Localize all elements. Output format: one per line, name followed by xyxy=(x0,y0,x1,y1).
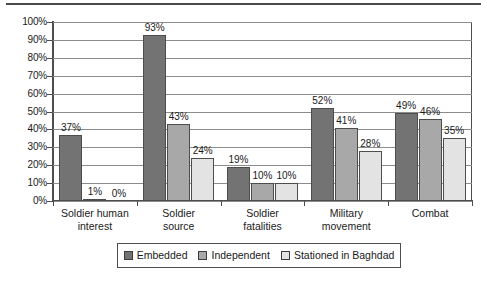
legend-swatch-icon-2 xyxy=(281,251,290,260)
legend-label-2: Stationed in Baghdad xyxy=(294,250,394,261)
category-label-2: Soldier fatalities xyxy=(221,207,305,232)
bar-value-label-1-1: 43% xyxy=(161,112,196,122)
bar-1-1 xyxy=(167,124,190,201)
y-tick-label-90: 90% xyxy=(3,35,47,45)
y-tick-label-50: 50% xyxy=(3,107,47,117)
bar-value-label-2-3: 28% xyxy=(353,139,388,149)
bar-value-label-2-4: 35% xyxy=(437,126,472,136)
bar-2-4 xyxy=(443,138,466,201)
x-axis-separator-1 xyxy=(221,201,222,206)
bar-2-3 xyxy=(359,151,382,201)
bar-value-label-2-0: 0% xyxy=(101,189,136,199)
category-label-3: Military movement xyxy=(304,207,388,232)
legend-swatch-icon-1 xyxy=(198,251,207,260)
bar-value-label-1-4: 46% xyxy=(413,107,448,117)
bar-2-2 xyxy=(275,183,298,201)
gridline-70 xyxy=(53,76,472,77)
y-tick-mark-10 xyxy=(47,183,53,184)
y-tick-label-10: 10% xyxy=(3,178,47,188)
y-tick-mark-70 xyxy=(47,76,53,77)
y-tick-label-0: 0% xyxy=(3,196,47,206)
y-tick-label-80: 80% xyxy=(3,53,47,63)
y-tick-label-60: 60% xyxy=(3,89,47,99)
bar-value-label-0-2: 19% xyxy=(221,155,256,165)
gridline-80 xyxy=(53,58,472,59)
y-tick-mark-80 xyxy=(47,58,53,59)
bar-value-label-1-3: 41% xyxy=(329,116,364,126)
legend-item-2[interactable]: Stationed in Baghdad xyxy=(281,250,394,261)
bar-0-4 xyxy=(395,113,418,201)
bar-1-0 xyxy=(83,199,106,201)
x-axis-separator-start xyxy=(53,201,54,206)
legend-item-0[interactable]: Embedded xyxy=(124,250,188,261)
gridline-0 xyxy=(53,201,472,202)
y-tick-mark-30 xyxy=(47,147,53,148)
y-tick-mark-100 xyxy=(47,22,53,23)
x-axis-separator-0 xyxy=(137,201,138,206)
x-axis-separator-3 xyxy=(388,201,389,206)
category-label-1: Soldier source xyxy=(137,207,221,232)
category-label-4: Combat xyxy=(388,207,472,220)
legend-label-0: Embedded xyxy=(137,250,188,261)
x-axis-separator-4 xyxy=(472,201,473,206)
legend-label-1: Independent xyxy=(211,250,269,261)
y-tick-label-100: 100% xyxy=(3,17,47,27)
y-tick-mark-20 xyxy=(47,165,53,166)
y-tick-mark-40 xyxy=(47,129,53,130)
gridline-100 xyxy=(53,22,472,23)
y-tick-mark-60 xyxy=(47,94,53,95)
bar-1-2 xyxy=(251,183,274,201)
y-tick-label-70: 70% xyxy=(3,71,47,81)
legend-item-1[interactable]: Independent xyxy=(198,250,269,261)
chart-legend: EmbeddedIndependentStationed in Baghdad xyxy=(117,243,401,268)
bar-value-label-0-0: 37% xyxy=(53,123,88,133)
gridline-60 xyxy=(53,94,472,95)
y-tick-label-30: 30% xyxy=(3,142,47,152)
bar-value-label-0-1: 93% xyxy=(137,23,172,33)
bar-value-label-2-2: 10% xyxy=(269,171,304,181)
y-tick-label-40: 40% xyxy=(3,124,47,134)
legend-swatch-icon-0 xyxy=(124,251,133,260)
bar-value-label-0-3: 52% xyxy=(305,96,340,106)
y-tick-label-20: 20% xyxy=(3,160,47,170)
category-label-0: Soldier human interest xyxy=(53,207,137,232)
gridline-90 xyxy=(53,40,472,41)
x-axis-separator-2 xyxy=(304,201,305,206)
y-tick-mark-90 xyxy=(47,40,53,41)
bar-2-1 xyxy=(191,158,214,201)
y-tick-mark-50 xyxy=(47,112,53,113)
bar-value-label-2-1: 24% xyxy=(185,146,220,156)
bar-chart-figure: 100%90%80%70%60%50%40%30%20%10%0% 37%1%0… xyxy=(0,0,487,283)
